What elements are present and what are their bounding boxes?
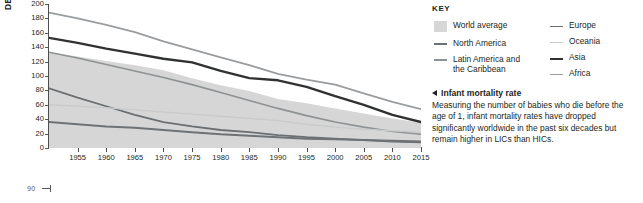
y-tick-label: 120 [22,58,44,66]
page-number: 90 [27,184,36,193]
key-line-swatch-icon [550,74,563,76]
x-tick-mark [221,148,222,152]
caption-heading-text: Infant mortality rate [441,88,521,98]
key-line-swatch-icon [550,26,563,28]
key-item-label: Africa [569,68,590,79]
x-tick-mark [249,148,250,152]
x-tick-mark [421,148,422,152]
caption-heading: Infant mortality rate [432,88,643,98]
x-tick-mark [335,148,336,152]
caption-block: Infant mortality rate Measuring the numb… [432,88,643,146]
y-axis-title: DEATHS PER 1,000 BIRTHS [3,0,13,10]
x-tick-mark [106,148,107,152]
key-line-swatch-icon [434,59,447,61]
y-tick-label: 60 [22,101,44,109]
key-item-label: North America [453,38,506,49]
caption-body: Measuring the number of babies who die b… [432,100,632,146]
y-tick-label: 0 [22,144,44,152]
y-tick-label: 40 [22,115,44,123]
key-item-label: Asia [569,52,585,63]
key-item-label: Latin America andthe Caribbean [453,54,520,75]
y-tick-label: 20 [22,130,44,138]
key-item-label: Oceania [569,36,600,47]
world-average-band [49,52,421,148]
x-tick-mark [163,148,164,152]
x-tick-mark [278,148,279,152]
key-legend: World averageNorth AmericaLatin America … [432,20,643,82]
y-tick-label: 140 [22,43,44,51]
x-tick-mark [307,148,308,152]
page-number-rule-cap [50,185,51,192]
key-item-oceania: Oceania [550,36,643,47]
infographic-page: DEATHS PER 1,000 BIRTHS 0204060801001201… [0,0,643,203]
key-item-label-line2: the Caribbean [453,64,520,75]
key-line-swatch-icon [550,58,563,60]
key-line-swatch-icon [550,42,563,43]
key-item-world-average: World average [434,20,552,32]
y-tick-label: 100 [22,72,44,80]
x-tick-mark [78,148,79,152]
y-tick-label: 180 [22,14,44,22]
x-tick-mark [192,148,193,152]
key-item-europe: Europe [550,20,643,31]
key-item-north-america: North America [434,38,552,49]
x-tick-mark [392,148,393,152]
triangle-left-icon [432,90,437,96]
key-item-latin-america-and: Latin America andthe Caribbean [434,54,552,75]
y-axis-tick-labels: 020406080100120140160180200 [22,0,44,147]
y-tick-label: 200 [22,0,44,8]
line-chart-svg [49,4,421,148]
plot-area [49,4,421,148]
key-item-africa: Africa [550,68,643,79]
y-tick-label: 80 [22,86,44,94]
key-column-right: EuropeOceaniaAsiaAfrica [550,20,643,84]
key-column-left: World averageNorth AmericaLatin America … [434,20,552,80]
key-line-swatch-icon [434,43,447,45]
y-tick-mark [45,148,49,149]
key-item-asia: Asia [550,52,643,63]
chart-container: DEATHS PER 1,000 BIRTHS 0204060801001201… [0,0,425,175]
x-tick-mark [135,148,136,152]
key-item-label: World average [453,20,507,31]
key-area-swatch-icon [434,21,447,32]
key-item-label: Europe [569,20,596,31]
key-title: KEY [432,4,643,13]
sidebar: KEY World averageNorth AmericaLatin Amer… [432,4,643,199]
y-tick-label: 160 [22,29,44,37]
x-tick-mark [364,148,365,152]
